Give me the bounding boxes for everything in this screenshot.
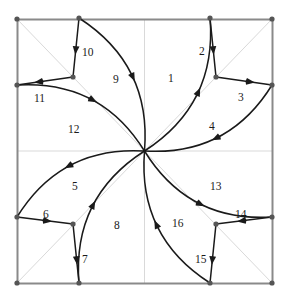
segment-1-arrowhead [194, 88, 201, 97]
segment-label-11: 11 [34, 93, 45, 105]
segment-12-arrowhead [88, 95, 97, 102]
segment-5-arrowhead [65, 161, 74, 168]
vertex-dot-bottom-right-corner [269, 280, 274, 285]
segment-5-path [17, 151, 145, 217]
segment-label-12: 12 [68, 124, 80, 136]
vertex-dot-bottom-edge-right-node [207, 280, 212, 285]
segment-label-15: 15 [195, 254, 207, 266]
vertex-dot-top-edge-right-node [207, 15, 212, 20]
vertex-dot-top-edge-left-node [76, 15, 81, 20]
vertex-dot-inner-node-lower-left [70, 221, 75, 226]
segment-label-7: 7 [82, 254, 88, 266]
segment-label-10: 10 [82, 47, 94, 59]
segment-3-path [216, 77, 272, 85]
segment-16-arrowhead [154, 220, 161, 229]
vertex-dot-left-edge-bottom-node [14, 214, 19, 219]
vertex-dot-inner-node-lower-right [213, 221, 218, 226]
segment-15-path [210, 224, 216, 283]
segment-13-arrowhead [196, 199, 205, 206]
vertex-dot-bottom-left-corner [14, 280, 19, 285]
vertex-dot-top-left-corner [14, 16, 19, 21]
vertex-dot-inner-node-upper-right [213, 74, 218, 79]
segment-label-2: 2 [199, 46, 205, 58]
segment-label-4: 4 [209, 121, 215, 133]
segment-11-arrowhead [34, 78, 43, 85]
segment-label-6: 6 [43, 209, 49, 221]
segment-label-3: 3 [238, 92, 244, 104]
segment-label-1: 1 [168, 73, 174, 85]
pinwheel-flower-figure [0, 0, 289, 298]
segment-11-path [17, 77, 73, 85]
vertex-dot-left-edge-top-node [14, 82, 19, 87]
vertex-dot-top-right-corner [269, 16, 274, 21]
vertex-dot-right-edge-top-node [269, 82, 274, 87]
segment-13-path [145, 151, 273, 217]
segment-1-path [145, 18, 211, 151]
segment-9-arrowhead [128, 72, 135, 81]
segment-label-16: 16 [172, 218, 184, 230]
vertex-dot-bottom-edge-left-node [76, 280, 81, 285]
segment-4-arrowhead [212, 133, 221, 140]
vertex-dot-right-edge-bottom-node [269, 214, 274, 219]
segment-label-5: 5 [72, 181, 78, 193]
vertex-dot-inner-node-upper-left [70, 74, 75, 79]
segment-label-8: 8 [114, 220, 120, 232]
diagram-stage: 12345678910111213141516 [0, 0, 289, 298]
segment-3-arrowhead [246, 78, 255, 85]
segment-label-9: 9 [113, 74, 119, 86]
segment-label-14: 14 [235, 209, 247, 221]
segment-8-path [78, 151, 144, 283]
segment-4-path [145, 85, 273, 151]
segment-label-13: 13 [210, 181, 222, 193]
